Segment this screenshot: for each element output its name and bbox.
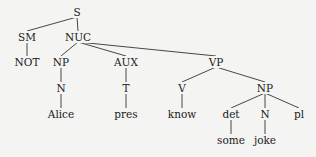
tree-edge [77, 17, 78, 31]
node-n-object: N [259, 108, 270, 120]
tree-edge [61, 42, 78, 56]
node-aux: AUX [113, 56, 139, 68]
node-np-object: NP [256, 82, 274, 94]
tree-edge [265, 93, 299, 108]
syntax-tree-diagram: S SM NUC NOT NP AUX VP N T V NP Alice pr… [0, 0, 316, 157]
node-v: V [177, 82, 187, 94]
leaf-pl: pl [293, 108, 305, 120]
node-n-subject: N [55, 82, 66, 94]
leaf-some: some [216, 134, 246, 146]
node-t: T [121, 82, 130, 94]
tree-edge [182, 67, 216, 82]
leaf-joke: joke [253, 134, 277, 146]
node-np-subject: NP [52, 56, 70, 68]
node-nuc: NUC [64, 31, 92, 43]
node-not: NOT [14, 56, 41, 68]
leaf-alice: Alice [47, 108, 75, 120]
node-s: S [72, 6, 81, 18]
leaf-know: know [167, 108, 197, 120]
tree-edge [27, 17, 77, 31]
tree-edge [216, 67, 265, 82]
tree-edge [231, 93, 265, 108]
node-sm: SM [17, 31, 37, 43]
node-det: det [221, 108, 240, 120]
tree-edge [78, 42, 216, 56]
node-vp: VP [208, 56, 225, 68]
leaf-pres: pres [113, 108, 138, 120]
